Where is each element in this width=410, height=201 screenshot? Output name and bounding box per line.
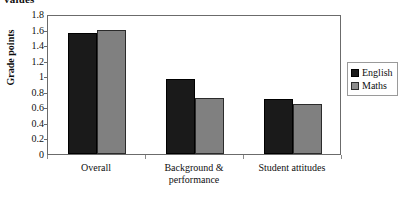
y-axis-tick-label: 0.4 (4, 119, 44, 129)
legend-label: English (362, 67, 393, 78)
legend-item-english: English (351, 66, 393, 79)
legend-label: Maths (362, 80, 387, 91)
bar-english-0 (68, 33, 97, 154)
y-axis-tick-label: 1 (4, 72, 44, 82)
bar-maths-1 (195, 98, 224, 154)
plot-area (47, 15, 341, 155)
y-axis-tick-label: 1.6 (4, 26, 44, 36)
bar-maths-2 (293, 104, 322, 154)
bar-maths-0 (97, 30, 126, 154)
y-axis-tick-label: 0.6 (4, 103, 44, 113)
x-axis-category-label: Student attitudes (233, 162, 351, 174)
legend-item-maths: Maths (351, 79, 393, 92)
bars-layer (48, 16, 340, 154)
x-axis-tick-mark (145, 155, 146, 159)
legend-swatch-icon (351, 82, 359, 90)
x-axis-tick-mark (341, 155, 342, 159)
chart-legend: EnglishMaths (347, 62, 398, 96)
y-axis-tick-label: 0.2 (4, 134, 44, 144)
y-axis-tick-label: 1.2 (4, 57, 44, 67)
y-axis-tick-label: 0.8 (4, 88, 44, 98)
x-axis-tick-mark (243, 155, 244, 159)
bar-chart: values Grade points 1.81.61.41.210.80.60… (0, 0, 410, 201)
legend-swatch-icon (351, 69, 359, 77)
bar-english-1 (166, 79, 195, 154)
y-axis-tick-label: 1.8 (4, 10, 44, 20)
x-axis-tick-mark (47, 155, 48, 159)
y-axis-tick-label: 1.4 (4, 41, 44, 51)
bar-english-2 (264, 99, 293, 154)
y-axis-tick-label: 0 (4, 150, 44, 160)
